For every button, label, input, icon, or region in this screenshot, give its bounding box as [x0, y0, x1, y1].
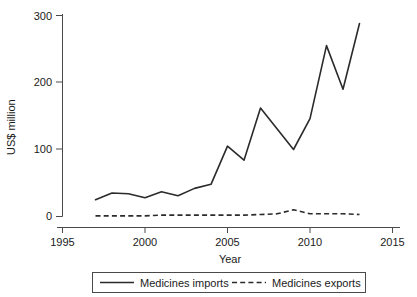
chart-figure: US$ million 300 200 100 0 1995 2	[0, 0, 417, 297]
chart-svg: US$ million 300 200 100 0 1995 2	[0, 0, 417, 297]
x-axis-ticks	[63, 228, 393, 234]
x-axis-title: Year	[219, 253, 242, 265]
chart-legend: Medicines imports Medicines exports	[93, 273, 366, 293]
x-tick-label: 2015	[380, 236, 404, 248]
x-tick-label: 2005	[215, 236, 239, 248]
x-tick-label: 1995	[50, 236, 74, 248]
series-line-medicines-exports	[96, 210, 360, 216]
y-tick-labels: 300 200 100 0	[34, 10, 52, 222]
series-line-medicines-imports	[96, 24, 360, 200]
legend-label-exports: Medicines exports	[272, 277, 361, 289]
y-axis-ticks	[56, 16, 63, 217]
x-tick-label: 2000	[133, 236, 157, 248]
y-tick-label: 0	[46, 210, 52, 222]
y-tick-label: 200	[34, 76, 52, 88]
x-tick-labels: 1995 2000 2005 2010 2015	[50, 236, 404, 248]
x-tick-label: 2010	[298, 236, 322, 248]
legend-label-imports: Medicines imports	[140, 277, 229, 289]
y-tick-label: 100	[34, 143, 52, 155]
y-tick-label: 300	[34, 10, 52, 22]
y-axis-title: US$ million	[5, 99, 17, 155]
